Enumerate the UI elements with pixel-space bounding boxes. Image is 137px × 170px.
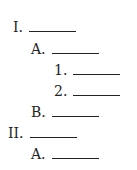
blank-line	[52, 157, 99, 159]
outline-item-level2: A.	[31, 146, 99, 162]
blank-line	[52, 52, 99, 54]
outline-label: I.	[13, 19, 23, 35]
outline-label: 2.	[54, 83, 67, 99]
outline-label: B.	[31, 104, 46, 120]
blank-line	[30, 136, 77, 138]
blank-line	[52, 115, 99, 117]
outline-item-level3: 1.	[54, 62, 120, 78]
outline-label: 1.	[54, 62, 67, 78]
blank-line	[73, 73, 120, 75]
outline-item-level2: B.	[31, 104, 99, 120]
outline-item-level1: II.	[8, 125, 77, 141]
outline-item-level3: 2.	[54, 83, 120, 99]
outline-label: II.	[8, 125, 24, 141]
blank-line	[29, 30, 76, 32]
outline-label: A.	[31, 41, 46, 57]
blank-line	[73, 94, 120, 96]
outline-item-level1: I.	[13, 19, 76, 35]
outline-item-level2: A.	[31, 41, 99, 57]
outline-label: A.	[31, 146, 46, 162]
